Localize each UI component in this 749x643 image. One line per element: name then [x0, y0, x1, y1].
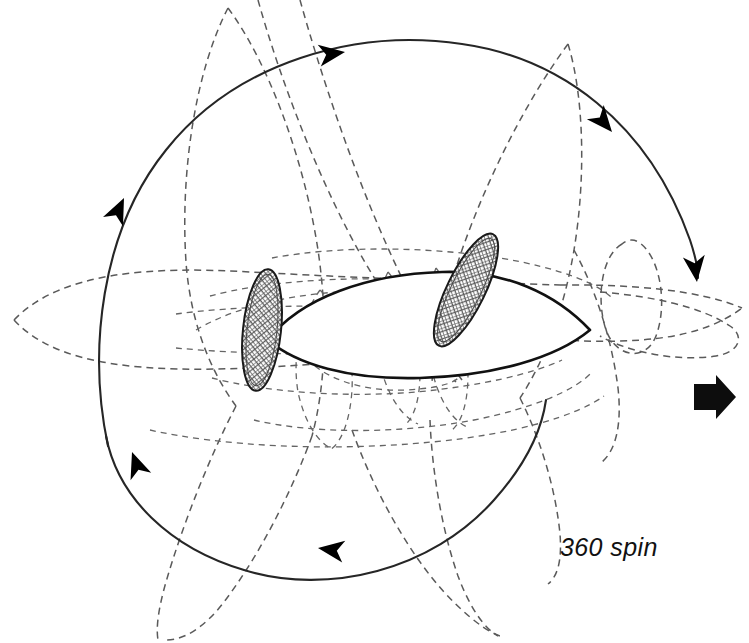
arrowhead-top [318, 41, 347, 66]
arrowhead-left-lower [122, 448, 152, 480]
arrowhead-bottom [316, 537, 345, 562]
lower-rotation-arc [106, 400, 546, 580]
direction-of-travel-arrow [694, 375, 736, 419]
fin-left [237, 267, 288, 392]
caption-360-spin: 360 spin [560, 533, 658, 562]
upper-rotation-arc [99, 40, 698, 446]
lens-shaped-body [268, 272, 590, 378]
arrowhead-upper-right [587, 105, 621, 139]
figure-canvas: 360 spin [0, 0, 749, 643]
